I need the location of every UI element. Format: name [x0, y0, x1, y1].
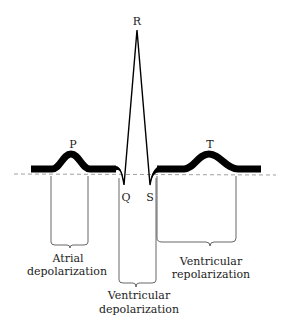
ventricular-repolarization-bracket — [157, 176, 236, 246]
atrial-depolarization-bracket — [51, 176, 88, 248]
r-wave-label: R — [133, 15, 142, 28]
atrial-depolarization-label-line2: depolarization — [27, 265, 107, 278]
ventricular-repolarization-label-line2: repolarization — [172, 268, 250, 281]
baseline — [14, 174, 276, 175]
p-wave-trace — [31, 154, 116, 169]
ventricular-repolarization-label-line1: Ventricular — [179, 255, 243, 268]
q-wave-label: Q — [121, 191, 130, 204]
atrial-depolarization-label-line1: Atrial — [51, 252, 84, 265]
t-wave-label: T — [206, 138, 214, 151]
t-wave-trace — [157, 154, 261, 169]
ventricular-depolarization-label-line2: depolarization — [99, 303, 179, 316]
s-wave-label: S — [146, 191, 154, 204]
ecg-diagram: R P T Q S Atrial depolarization Ventricu… — [0, 0, 284, 327]
ventricular-depolarization-label-line1: Ventricular — [107, 289, 171, 302]
p-wave-label: P — [69, 138, 77, 151]
qrs-complex-trace — [116, 30, 158, 185]
